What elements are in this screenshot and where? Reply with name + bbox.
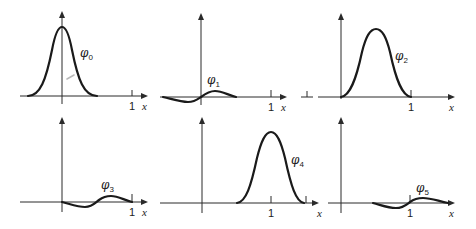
tick-label-1: 1 — [129, 206, 135, 218]
x-axis-label: x — [141, 206, 147, 218]
x-axis-arrow-icon — [312, 200, 319, 206]
x-axis-label: x — [448, 101, 454, 113]
panel-phi3: 1 x φ3 — [20, 117, 148, 218]
x-axis-label: x — [448, 207, 454, 219]
curve-label-phi1: φ1 — [207, 73, 220, 89]
y-axis-arrow-icon — [59, 11, 65, 18]
x-axis-arrow-icon — [448, 94, 455, 100]
panel-phi1: 1 x φ1 — [160, 13, 313, 113]
panel-phi5: 1 x φ5 — [328, 117, 455, 219]
curve-phi4 — [237, 132, 304, 203]
scan-artifact — [67, 75, 74, 79]
tick-label-1: 1 — [268, 207, 274, 219]
curve-label-phi5: φ5 — [416, 181, 429, 197]
x-axis-label: x — [316, 207, 322, 219]
basis-functions-figure: 1 x φ0 1 x φ1 1 x φ2 — [0, 0, 476, 229]
curve-phi2 — [341, 29, 411, 97]
y-axis-arrow-icon — [338, 13, 344, 20]
x-axis-arrow-icon — [141, 93, 148, 99]
x-axis-arrow-icon — [141, 199, 148, 205]
curve-label-phi2: φ2 — [395, 49, 408, 65]
x-axis-label: x — [280, 101, 286, 113]
y-axis-arrow-icon — [199, 117, 205, 124]
y-axis-arrow-icon — [198, 13, 204, 20]
x-axis-arrow-icon — [280, 94, 287, 100]
tick-label-1: 1 — [407, 207, 413, 219]
panel-phi0: 1 x φ0 — [20, 11, 148, 112]
y-axis-arrow-icon — [338, 117, 344, 124]
curve-label-phi3: φ3 — [101, 178, 114, 194]
panel-phi4: 1 x φ4 — [160, 117, 322, 219]
curve-label-phi0: φ0 — [80, 46, 93, 62]
tick-label-1: 1 — [129, 100, 135, 112]
tick-label-1: 1 — [268, 101, 274, 113]
x-axis-label: x — [141, 100, 147, 112]
tick-label-1: 1 — [408, 101, 414, 113]
panel-phi2: 1 x φ2 — [318, 13, 455, 113]
curve-label-phi4: φ4 — [291, 153, 304, 169]
y-axis-arrow-icon — [59, 117, 65, 124]
